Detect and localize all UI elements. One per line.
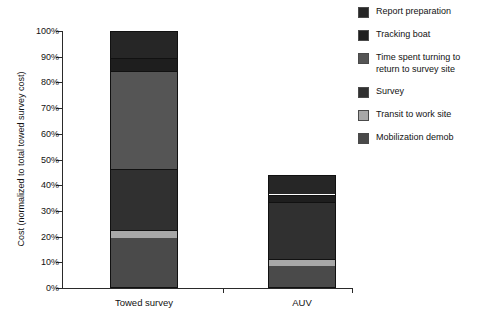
- legend-label: Mobilization demob: [376, 132, 454, 144]
- y-tick-label: 10%: [41, 257, 59, 267]
- x-axis-label-auv: AUV: [292, 297, 312, 308]
- stacked-bar-chart: Cost (normalized to total towed survey c…: [0, 0, 489, 322]
- y-tick-label: 100%: [36, 26, 59, 36]
- y-tick-label: 20%: [41, 232, 59, 242]
- y-tick-label: 90%: [41, 52, 59, 62]
- legend-label: Tracking boat: [376, 29, 430, 41]
- x-tick-mark: [352, 288, 353, 293]
- y-tick-label: 0%: [46, 283, 59, 293]
- y-tick-label: 50%: [41, 155, 59, 165]
- bar-segment-survey[interactable]: [269, 202, 335, 259]
- legend-swatch-transit-to-work-site: [358, 110, 369, 121]
- bar-auv[interactable]: [268, 175, 336, 288]
- legend-swatch-tracking-boat: [358, 30, 369, 41]
- bar-segment-survey[interactable]: [111, 169, 177, 231]
- legend-label: Report preparation: [376, 6, 451, 18]
- bar-towed-survey[interactable]: [110, 31, 178, 288]
- bar-segment-report-preparation[interactable]: [111, 31, 177, 58]
- legend-label: Survey: [376, 86, 404, 98]
- x-axis-label-towed-survey: Towed survey: [115, 297, 173, 308]
- chart-legend: Report preparationTracking boatTime spen…: [358, 6, 488, 155]
- y-tick-label: 40%: [41, 180, 59, 190]
- y-axis-line: [62, 31, 63, 289]
- legend-label: Time spent turning to return to survey s…: [376, 52, 460, 75]
- bar-segment-mobilization-demob[interactable]: [111, 238, 177, 287]
- bar-segment-tracking-boat[interactable]: [269, 195, 335, 203]
- plot-area: 0%10%20%30%40%50%60%70%80%90%100% Towed …: [62, 31, 352, 288]
- y-tick-label: 80%: [41, 77, 59, 87]
- legend-item-transit-to-work-site[interactable]: Transit to work site: [358, 109, 488, 121]
- legend-swatch-report-preparation: [358, 7, 369, 18]
- bar-segment-report-preparation[interactable]: [269, 175, 335, 195]
- legend-swatch-mobilization-demob: [358, 133, 369, 144]
- x-axis-line: [62, 288, 353, 289]
- y-tick-label: 70%: [41, 103, 59, 113]
- bar-segment-transit-to-work-site[interactable]: [111, 230, 177, 238]
- y-tick-label: 60%: [41, 129, 59, 139]
- bar-segment-mobilization-demob[interactable]: [269, 266, 335, 287]
- legend-item-report-preparation[interactable]: Report preparation: [358, 6, 488, 18]
- legend-item-time-spent-turning-to[interactable]: Time spent turning to return to survey s…: [358, 52, 488, 75]
- legend-item-tracking-boat[interactable]: Tracking boat: [358, 29, 488, 41]
- legend-item-mobilization-demob[interactable]: Mobilization demob: [358, 132, 488, 144]
- legend-swatch-survey: [358, 87, 369, 98]
- legend-swatch-time-spent-turning: [358, 53, 369, 64]
- bar-segment-transit-to-work-site[interactable]: [269, 259, 335, 267]
- legend-item-survey[interactable]: Survey: [358, 86, 488, 98]
- y-axis-title: Cost (normalized to total towed survey c…: [16, 44, 26, 274]
- bar-segment-time-spent-turning-to[interactable]: [111, 71, 177, 169]
- legend-label: Transit to work site: [376, 109, 451, 121]
- x-tick-mark: [223, 288, 224, 293]
- y-tick-label: 30%: [41, 206, 59, 216]
- bar-segment-tracking-boat[interactable]: [111, 58, 177, 71]
